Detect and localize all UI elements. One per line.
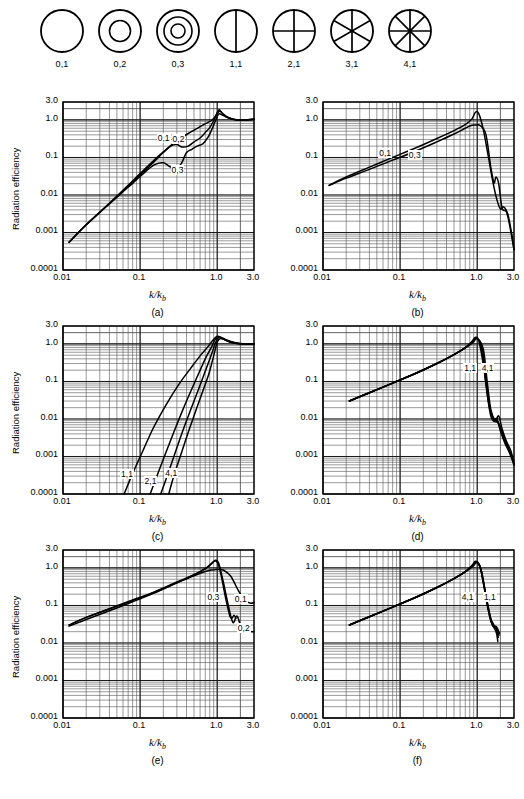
y-tick-label: 1.0 (278, 113, 318, 123)
mode-shape-legend: 0,10,20,31,12,13,14,1 (0, 6, 519, 84)
curve-annotation-0-2: 0,2 (237, 623, 251, 633)
x-tick-label: 0.1 (122, 720, 156, 730)
chart-panel-c (62, 325, 255, 495)
chart-panel-e (62, 549, 255, 719)
panel-caption: (a) (128, 307, 188, 318)
y-tick-label: 0.001 (18, 449, 58, 459)
curve-annotation-0-3: 0,3 (171, 165, 185, 175)
curve-4-1 (349, 338, 514, 464)
x-axis-title: k/kb (128, 288, 188, 303)
y-tick-label: 0.001 (278, 449, 318, 459)
y-tick-label: 1.0 (278, 561, 318, 571)
y-tick-label: 0.1 (278, 374, 318, 384)
curve-0-1 (69, 110, 254, 242)
panel-caption: (b) (388, 307, 448, 318)
curve-annotation-0-2: 0,2 (172, 134, 186, 144)
curve-annotation-1-1: 1,1 (463, 363, 477, 373)
x-tick-label: 0.01 (305, 720, 339, 730)
x-tick-label: 0.1 (122, 272, 156, 282)
curve-annotation-0-1: 0,1 (157, 133, 171, 143)
y-tick-label: 1.0 (18, 337, 58, 347)
x-tick-label: 3.0 (496, 496, 524, 506)
curve-annotation-0-3: 0,3 (408, 150, 422, 160)
y-tick-label: 3.0 (278, 543, 318, 553)
panel-caption: (c) (128, 531, 188, 542)
y-axis-title: Radiation efficiency (10, 372, 21, 454)
x-axis-title-main: k/k (149, 736, 162, 748)
curve-annotation-0-3: 0,3 (206, 592, 220, 602)
mode-shape-0-2: 0,2 (91, 6, 149, 69)
curve-annotation-0-1: 0,1 (378, 148, 392, 158)
curve-annotation-1-1: 1,1 (120, 469, 134, 479)
panel-caption: (e) (128, 755, 188, 766)
y-tick-label: 3.0 (278, 319, 318, 329)
y-tick-label: 0.01 (278, 636, 318, 646)
chart-panel-f (322, 549, 515, 719)
x-tick-label: 0.1 (382, 720, 416, 730)
y-tick-label: 0.01 (18, 636, 58, 646)
curve-annotation-4-1: 4,1 (164, 468, 178, 478)
x-axis-title-main: k/k (409, 736, 422, 748)
curve-annotation-0-1: 0,1 (234, 594, 248, 604)
x-axis-title-sub: b (162, 742, 166, 751)
x-tick-label: 3.0 (496, 272, 524, 282)
y-tick-label: 0.1 (18, 374, 58, 384)
x-tick-label: 1.0 (459, 720, 493, 730)
x-tick-label: 3.0 (236, 496, 270, 506)
x-axis-title-sub: b (162, 518, 166, 527)
mode-label: 4,1 (381, 59, 439, 69)
x-axis-title-main: k/k (409, 288, 422, 300)
panel-caption: (f) (388, 755, 448, 766)
x-tick-label: 0.1 (382, 496, 416, 506)
curve-4-1 (169, 338, 254, 494)
curve-2-1 (349, 562, 499, 635)
x-tick-label: 0.1 (382, 272, 416, 282)
mode-shape-0-1: 0,1 (33, 6, 91, 69)
chart-panel-b (322, 101, 515, 271)
y-axis-title: Radiation efficiency (10, 148, 21, 230)
x-tick-label: 3.0 (236, 272, 270, 282)
chart-panel-a (62, 101, 255, 271)
x-tick-label: 1.0 (199, 720, 233, 730)
x-tick-label: 1.0 (199, 272, 233, 282)
y-tick-label: 3.0 (18, 319, 58, 329)
x-axis-title: k/kb (388, 288, 448, 303)
x-tick-label: 1.0 (459, 496, 493, 506)
curve-annotation-1-1: 1,1 (483, 592, 497, 602)
y-axis-title: Radiation efficiency (10, 596, 21, 678)
x-tick-label: 0.01 (45, 272, 79, 282)
y-tick-label: 0.001 (18, 673, 58, 683)
mode-shape-1-1: 1,1 (207, 6, 265, 69)
x-axis-title: k/kb (128, 736, 188, 751)
curve-0-1 (329, 112, 514, 250)
x-axis-title-main: k/k (409, 512, 422, 524)
curve-annotation-4-1: 4,1 (461, 592, 475, 602)
mode-shape-4-1: 4,1 (381, 6, 439, 69)
mode-label: 0,1 (33, 59, 91, 69)
x-axis-title-sub: b (422, 294, 426, 303)
y-tick-label: 0.01 (18, 412, 58, 422)
x-tick-label: 0.1 (122, 496, 156, 506)
y-tick-label: 0.1 (278, 150, 318, 160)
y-tick-label: 3.0 (278, 95, 318, 105)
y-tick-label: 0.001 (278, 225, 318, 235)
mode-shape-0-3: 0,3 (149, 6, 207, 69)
x-tick-label: 0.01 (305, 272, 339, 282)
x-tick-label: 3.0 (236, 720, 270, 730)
panel-caption: (d) (388, 531, 448, 542)
x-axis-title-sub: b (422, 518, 426, 527)
x-tick-label: 0.01 (305, 496, 339, 506)
x-axis-title: k/kb (388, 736, 448, 751)
y-tick-label: 3.0 (18, 543, 58, 553)
y-tick-label: 1.0 (18, 561, 58, 571)
x-axis-title: k/kb (128, 512, 188, 527)
mode-label: 1,1 (207, 59, 265, 69)
y-tick-label: 0.01 (278, 412, 318, 422)
x-axis-title: k/kb (388, 512, 448, 527)
y-tick-label: 3.0 (18, 95, 58, 105)
curve-annotation-4-1: 4,1 (481, 363, 495, 373)
x-tick-label: 0.01 (45, 720, 79, 730)
chart-panel-d (322, 325, 515, 495)
mode-label: 3,1 (323, 59, 381, 69)
x-tick-label: 0.01 (45, 496, 79, 506)
